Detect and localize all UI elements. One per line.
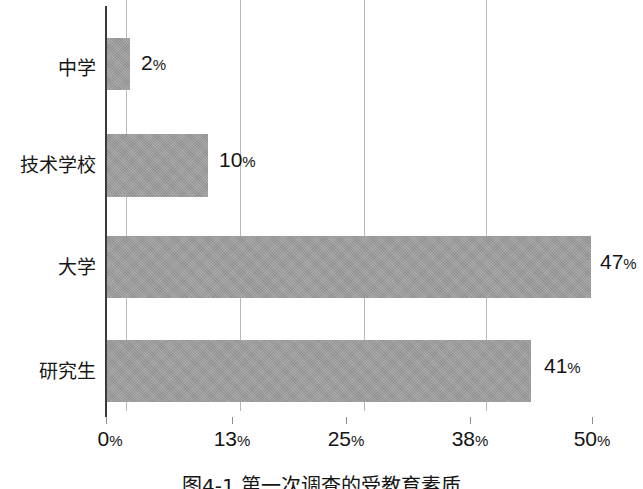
tick-number: 38 <box>452 427 475 450</box>
x-tick-label-50: 50% <box>574 427 611 451</box>
plot-area <box>106 6 592 417</box>
x-tick-label-38: 38% <box>452 427 489 451</box>
tick-mark-38 <box>470 417 471 424</box>
value-number: 41 <box>544 354 567 377</box>
tick-mark-0 <box>106 417 107 424</box>
category-label-daxue: 大学 <box>0 252 96 279</box>
percent-sign: % <box>109 432 122 449</box>
percent-sign: % <box>351 432 364 449</box>
category-label-text: 研究生 <box>39 360 96 382</box>
x-tick-label-0: 0% <box>97 427 122 451</box>
category-label-jishuxuexiao: 技术学校 <box>0 150 96 177</box>
category-label-yanjiusheng: 研究生 <box>0 356 96 383</box>
x-tick-label-13: 13% <box>214 427 251 451</box>
category-label-text: 大学 <box>58 256 96 278</box>
value-number: 10 <box>219 148 242 171</box>
tick-mark-25 <box>346 417 347 424</box>
y-axis-line <box>105 6 107 417</box>
value-number: 2 <box>141 51 153 74</box>
percent-sign: % <box>475 432 488 449</box>
tick-mark-50 <box>592 417 593 424</box>
bar-zhongxue <box>106 38 130 90</box>
category-label-zhongxue: 中学 <box>0 53 96 80</box>
tick-number: 0 <box>97 427 109 450</box>
percent-sign: % <box>567 359 580 376</box>
value-label-daxue: 47% <box>600 250 637 274</box>
category-label-text: 中学 <box>58 57 96 79</box>
figure-caption: 图4-1 第一次调查的受教育素质 <box>0 470 643 489</box>
percent-sign: % <box>623 255 636 272</box>
category-label-text: 技术学校 <box>20 154 96 176</box>
value-label-jishuxuexiao: 10% <box>219 148 256 172</box>
tick-number: 25 <box>328 427 351 450</box>
bar-jishuxuexiao <box>106 134 208 197</box>
percent-sign: % <box>242 153 255 170</box>
x-tick-label-25: 25% <box>328 427 365 451</box>
value-number: 47 <box>600 250 623 273</box>
value-label-yanjiusheng: 41% <box>544 354 581 378</box>
tick-number: 50 <box>574 427 597 450</box>
percent-sign: % <box>153 56 166 73</box>
bar-yanjiusheng <box>106 340 531 402</box>
tick-number: 13 <box>214 427 237 450</box>
bar-daxue <box>106 236 591 298</box>
percent-sign: % <box>597 432 610 449</box>
tick-mark-13 <box>232 417 233 424</box>
percent-sign: % <box>237 432 250 449</box>
bar-chart-figure: 中学 技术学校 大学 研究生 2% 10% 47% 41% 0% 13% 25%… <box>0 0 643 489</box>
value-label-zhongxue: 2% <box>141 51 166 75</box>
